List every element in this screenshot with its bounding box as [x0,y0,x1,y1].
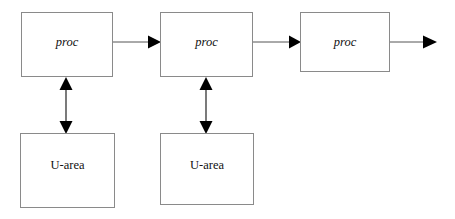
node-uarea-2[interactable]: U-area [160,133,254,205]
node-proc-2[interactable]: proc [160,12,253,77]
edge-proc1-uarea1 [60,77,73,134]
edge-proc2-uarea2 [200,77,213,134]
node-proc-1[interactable]: proc [21,12,113,77]
node-proc-3[interactable]: proc [300,12,390,72]
node-uarea-1-label: U-area [21,158,114,173]
node-uarea-1[interactable]: U-area [20,133,115,208]
node-proc-1-label: proc [22,35,112,50]
node-proc-2-label: proc [161,35,252,50]
edge-proc2-proc3 [253,36,301,49]
node-uarea-2-label: U-area [161,158,253,173]
diagram-canvas: proc proc proc U-area U-area [0,0,455,219]
node-proc-3-label: proc [301,35,389,50]
edge-proc1-proc2 [113,36,161,49]
edge-proc3-output [390,36,437,49]
